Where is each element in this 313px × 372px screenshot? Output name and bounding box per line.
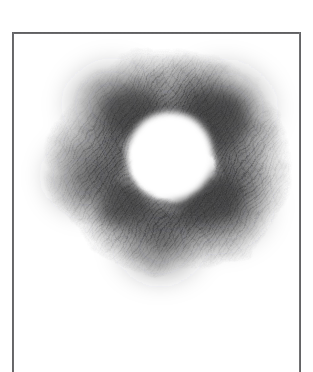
frame-right-rule (299, 32, 301, 372)
graphite-ring-drawing (0, 0, 313, 372)
paper-grain (30, 40, 290, 290)
tonal-mass (46, 46, 294, 278)
artboard (0, 0, 313, 372)
frame-left-rule (12, 32, 14, 372)
frame-top-rule (12, 32, 301, 34)
ring-lobes (38, 56, 282, 288)
ring-svg (0, 0, 313, 372)
hatch-strokes (30, 40, 290, 290)
dark-accents (98, 88, 248, 228)
